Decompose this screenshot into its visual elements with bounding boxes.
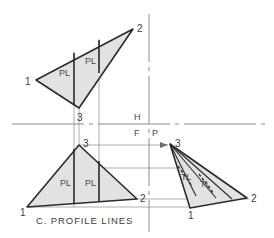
top-view-pl-label-2: PL	[85, 56, 96, 66]
profile-view-tl-label-2: TL	[200, 179, 211, 189]
profile-view-tl-label-1: TL	[181, 172, 192, 182]
profile-view: TL TL 3 1 2	[170, 138, 257, 221]
top-view: PL PL 1 2 3	[25, 23, 143, 123]
top-view-vertex-label-2: 2	[137, 23, 143, 34]
top-view-vertex-label-1: 1	[25, 76, 31, 87]
transfer-arrow-icon	[160, 142, 168, 148]
profile-view-vertex-label-3: 3	[175, 138, 181, 149]
figure-container: PL PL 1 2 3 PL PL 3 1 2	[0, 0, 274, 238]
front-view-face	[27, 145, 137, 207]
figure-caption: C. PROFILE LINES	[36, 215, 133, 226]
plane-label-f: F	[134, 128, 140, 138]
front-view-vertex-label-1: 1	[20, 207, 26, 218]
plane-labels: H F P	[134, 112, 158, 138]
profile-view-vertex-label-1: 1	[188, 210, 194, 221]
top-view-vertex-label-3: 3	[77, 112, 83, 123]
front-view-vertex-label-2: 2	[140, 193, 146, 204]
profile-view-vertex-label-2: 2	[251, 193, 257, 204]
front-view: PL PL 3 1 2	[20, 138, 146, 218]
profile-lines-drawing: PL PL 1 2 3 PL PL 3 1 2	[0, 0, 274, 238]
front-view-pl-label-2: PL	[85, 178, 96, 188]
plane-label-h: H	[134, 112, 141, 122]
front-view-pl-label-1: PL	[60, 178, 71, 188]
plane-label-p: P	[152, 128, 158, 138]
front-view-vertex-label-3: 3	[83, 138, 89, 149]
top-view-face	[36, 29, 133, 108]
top-view-pl-label-1: PL	[59, 68, 70, 78]
